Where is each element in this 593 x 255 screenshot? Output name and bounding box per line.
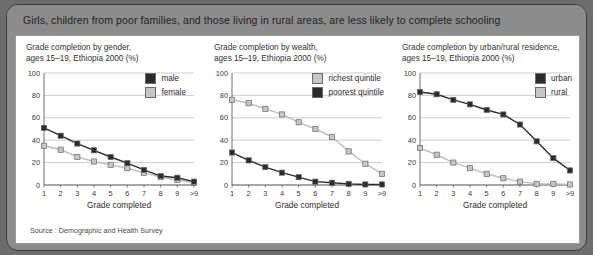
legend-swatch-icon: [312, 87, 323, 98]
x-tick-label: 6: [501, 189, 505, 198]
x-tick-label: 9: [551, 189, 555, 198]
data-point-marker: [75, 154, 80, 159]
legend-item[interactable]: richest quintile: [312, 73, 384, 84]
legend-label: female: [161, 88, 186, 97]
y-tick-label: 20: [220, 158, 228, 167]
y-tick-label: 40: [220, 136, 228, 145]
y-tick-label: 0: [412, 181, 416, 190]
data-point-marker: [313, 179, 318, 184]
data-point-marker: [363, 182, 368, 187]
data-point-marker: [296, 120, 301, 125]
legend-swatch-icon: [145, 73, 156, 84]
y-tick-label: 100: [404, 69, 416, 78]
data-point-marker: [58, 133, 63, 138]
legend-swatch-icon: [535, 87, 546, 98]
figure-header-band: Girls, children from poor families, and …: [7, 5, 586, 35]
data-point-marker: [363, 161, 368, 166]
data-point-marker: [517, 179, 522, 184]
legend-item[interactable]: male: [145, 73, 186, 84]
chart-legend: urbanrural: [535, 73, 572, 98]
data-point-marker: [379, 182, 384, 187]
data-point-marker: [313, 126, 318, 131]
legend-item[interactable]: urban: [535, 73, 572, 84]
legend-swatch-icon: [535, 73, 546, 84]
data-point-marker: [379, 171, 384, 176]
y-tick-label: 100: [28, 69, 40, 78]
legend-label: poorest quintile: [328, 88, 384, 97]
x-tick-label: 9: [175, 189, 179, 198]
x-tick-label: 4: [280, 189, 284, 198]
data-point-marker: [246, 101, 251, 106]
x-tick-label: 5: [109, 189, 113, 198]
data-point-marker: [451, 97, 456, 102]
x-tick-label: >9: [190, 189, 198, 198]
data-point-marker: [517, 122, 522, 127]
panel-title: Grade completion by wealth, ages 15–19, …: [210, 43, 388, 65]
data-point-marker: [467, 166, 472, 171]
data-point-marker: [346, 149, 351, 154]
legend-label: rural: [551, 88, 567, 97]
data-point-marker: [158, 173, 163, 178]
data-point-marker: [108, 154, 113, 159]
panels-row: Grade completion by gender, ages 15–19, …: [16, 36, 579, 220]
data-point-marker: [534, 181, 539, 186]
y-tick-label: 80: [32, 91, 40, 100]
series-line-rural: [420, 148, 570, 184]
data-point-marker: [58, 147, 63, 152]
data-point-marker: [279, 112, 284, 117]
x-tick-label: 2: [247, 189, 251, 198]
data-point-marker: [551, 181, 556, 186]
figure-body: Grade completion by gender, ages 15–19, …: [15, 35, 580, 244]
data-point-marker: [229, 97, 234, 102]
chart-panel-wealth: Grade completion by wealth, ages 15–19, …: [204, 36, 392, 220]
data-point-marker: [296, 175, 301, 180]
data-point-marker: [434, 92, 439, 97]
legend-item[interactable]: poorest quintile: [312, 87, 384, 98]
x-axis-label: Grade completed: [463, 200, 528, 210]
legend-item[interactable]: rural: [535, 87, 572, 98]
data-point-marker: [534, 139, 539, 144]
y-tick-label: 80: [408, 91, 416, 100]
data-point-marker: [467, 102, 472, 107]
x-axis-label: Grade completed: [275, 200, 340, 210]
panel-title: Grade completion by gender, ages 15–19, …: [22, 43, 200, 65]
data-point-marker: [329, 180, 334, 185]
data-point-marker: [191, 179, 196, 184]
series-line-urban: [420, 92, 570, 170]
figure-headline: Girls, children from poor families, and …: [7, 14, 500, 26]
x-tick-label: 4: [468, 189, 472, 198]
x-tick-label: 5: [485, 189, 489, 198]
x-tick-label: 7: [518, 189, 522, 198]
y-tick-label: 100: [216, 69, 228, 78]
legend-item[interactable]: female: [145, 87, 186, 98]
panel-title: Grade completion by urban/rural residenc…: [398, 43, 576, 65]
x-tick-label: 1: [42, 189, 46, 198]
x-tick-label: 3: [75, 189, 79, 198]
data-point-marker: [263, 164, 268, 169]
data-point-marker: [567, 182, 572, 187]
x-tick-label: 3: [451, 189, 455, 198]
x-tick-label: 8: [159, 189, 163, 198]
chart-legend: richest quintilepoorest quintile: [312, 73, 384, 98]
data-point-marker: [329, 134, 334, 139]
data-point-marker: [75, 141, 80, 146]
series-line-poorest-quintile: [232, 153, 382, 185]
x-axis-label: Grade completed: [87, 200, 152, 210]
x-tick-label: 4: [92, 189, 96, 198]
y-tick-label: 40: [408, 136, 416, 145]
y-tick-label: 60: [408, 113, 416, 122]
legend-label: urban: [551, 74, 572, 83]
y-tick-label: 80: [220, 91, 228, 100]
data-point-marker: [141, 167, 146, 172]
data-point-marker: [41, 125, 46, 130]
x-tick-label: >9: [566, 189, 574, 198]
x-tick-label: 2: [435, 189, 439, 198]
data-point-marker: [91, 148, 96, 153]
y-tick-label: 20: [32, 158, 40, 167]
data-point-marker: [125, 161, 130, 166]
chart-panel-gender: Grade completion by gender, ages 15–19, …: [16, 36, 204, 220]
data-point-marker: [108, 162, 113, 167]
legend-label: richest quintile: [328, 74, 380, 83]
legend-swatch-icon: [145, 87, 156, 98]
x-tick-label: 1: [230, 189, 234, 198]
